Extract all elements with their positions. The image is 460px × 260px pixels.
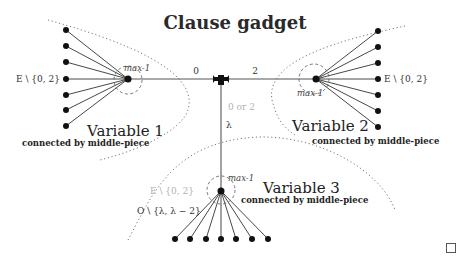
variable-1-leaf (63, 59, 69, 65)
edge-label-2: 2 (252, 66, 258, 76)
variable-3-leaf (187, 236, 193, 242)
variable-3-leaf (203, 236, 209, 242)
variable-1-leaf (63, 92, 69, 98)
variable-2-max-label: max-1 (297, 88, 323, 98)
variable-1-gadget: max-1 E \ {0, 2} Variable 1 connected by… (16, 27, 164, 148)
variable-2-leaf (375, 108, 381, 114)
variable-3-leaf (265, 236, 271, 242)
variable-2-leaf (375, 76, 381, 82)
variable-2-leaf-label: E \ {0, 2} (384, 74, 428, 84)
variable-3-leaf-label: O \ {λ, λ − 2} (137, 206, 201, 216)
variable-2-leaf (375, 44, 381, 50)
variable-2-leaf (375, 92, 381, 98)
edge-label-lambda: λ (226, 120, 232, 130)
variable-2-gadget: max-1 E \ {0, 2} Variable 2 connected by… (291, 28, 440, 146)
variable-3-leaf (249, 236, 255, 242)
variable-2-name: Variable 2 (291, 117, 369, 135)
variable-1-leaf (63, 76, 69, 82)
variable-3-leaf (218, 236, 224, 242)
variable-1-leaf (63, 123, 69, 129)
variable-2-leaf (375, 28, 381, 34)
variable-1-leaf (63, 107, 69, 113)
variable-3-gadget: max-1 E \ {0, 2} O \ {λ, λ − 2} Variable… (137, 173, 369, 242)
variable-1-leaf (63, 43, 69, 49)
variable-3-faded-leaf-label: E \ {0, 2} (150, 186, 194, 196)
variable-3-subtitle: connected by middle-piece (241, 195, 369, 205)
variable-1-subtitle: connected by middle-piece (22, 138, 150, 148)
variable-2-leaf (375, 124, 381, 130)
variable-2-subtitle: connected by middle-piece (312, 136, 440, 146)
variable-1-hub (125, 76, 132, 83)
variable-3-leaf (233, 236, 239, 242)
variable-1-leaf (63, 27, 69, 33)
variable-2-leaf (375, 60, 381, 66)
clause-gadget-diagram: Clause gadget 0 2 0 or 2 λ max-1 E \ {0,… (0, 0, 460, 260)
variable-3-leaf (172, 236, 178, 242)
variable-1-max-label: max-1 (124, 63, 150, 73)
clause-node (213, 75, 229, 85)
variable-3-hub (218, 188, 225, 195)
edge-label-0: 0 (193, 66, 199, 76)
edge-label-0-or-2: 0 or 2 (228, 102, 255, 112)
variable-3-max-label: max-1 (228, 173, 254, 183)
variable-1-leaf-label: E \ {0, 2} (16, 74, 60, 84)
end-of-proof-square (446, 243, 456, 253)
variable-2-hub (313, 76, 320, 83)
diagram-title: Clause gadget (164, 12, 308, 33)
